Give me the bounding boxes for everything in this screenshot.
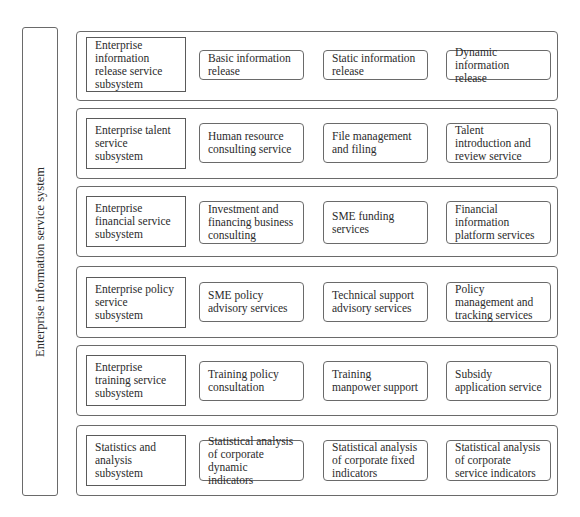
row-statistics: Statistics and analysis subsystem Statis… [76, 425, 558, 496]
system-label: Enterprise information service system [33, 167, 48, 357]
subsystem-box: Enterprise financial service subsystem [86, 196, 186, 247]
service-box: Statistical analysis of corporate servic… [446, 440, 551, 481]
row-policy: Enterprise policy service subsystem SME … [76, 266, 558, 338]
service-box: SME policy advisory services [199, 282, 304, 322]
row-talent: Enterprise talent service subsystem Huma… [76, 108, 558, 179]
service-box: Talent introduction and review service [446, 123, 551, 163]
subsystem-box: Statistics and analysis subsystem [86, 435, 186, 486]
subsystem-box: Enterprise policy service subsystem [86, 277, 186, 328]
system-box: Enterprise information service system [22, 27, 58, 496]
service-box: Basic information release [199, 50, 304, 80]
subsystem-box: Enterprise training service subsystem [86, 355, 186, 406]
service-box: Subsidy application service [446, 361, 551, 401]
service-box: Human resource consulting service [199, 123, 304, 163]
service-box: Training manpower support [323, 361, 428, 401]
service-box: Financial information platform services [446, 201, 551, 244]
row-financial: Enterprise financial service subsystem I… [76, 186, 558, 257]
service-box: Investment and financing business consul… [199, 201, 304, 244]
service-box: Static information release [323, 50, 428, 80]
row-information-release: Enterprise information release service s… [76, 31, 558, 101]
service-box: Technical support advisory services [323, 282, 428, 322]
subsystem-box: Enterprise talent service subsystem [86, 118, 186, 169]
subsystem-box: Enterprise information release service s… [86, 37, 186, 92]
service-box: SME funding services [323, 201, 428, 244]
row-training: Enterprise training service subsystem Tr… [76, 345, 558, 416]
service-box: Policy management and tracking services [446, 282, 551, 322]
service-box: Statistical analysis of corporate dynami… [199, 440, 304, 481]
service-box: Statistical analysis of corporate fixed … [323, 440, 428, 481]
service-box: File management and filing [323, 123, 428, 163]
service-box: Dynamic information release [446, 50, 551, 80]
service-box: Training policy consultation [199, 361, 304, 401]
